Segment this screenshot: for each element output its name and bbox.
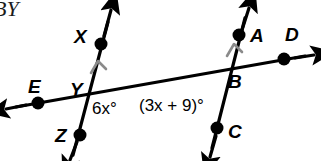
point-label-z: Z [55,126,67,145]
point-dot-c [211,122,224,135]
point-label-a: A [250,26,264,45]
diagram-svg [0,0,321,161]
point-label-b: B [228,72,242,91]
point-label-d: D [285,25,299,44]
point-dot-z [74,129,87,142]
point-label-y: Y [70,80,83,99]
point-dot-d [278,53,291,66]
angle-label-6x: 6x° [92,100,117,117]
point-dot-e [32,97,45,110]
point-label-e: E [28,77,41,96]
point-label-c: C [228,122,242,141]
point-dot-a [233,29,246,42]
point-label-x: X [74,27,87,46]
angle-label-3x-plus-9: (3x + 9)° [139,97,204,114]
parallel-mark-icon [91,61,106,73]
point-dot-x [95,38,108,51]
geometry-diagram-canvas: BY [0,0,321,161]
